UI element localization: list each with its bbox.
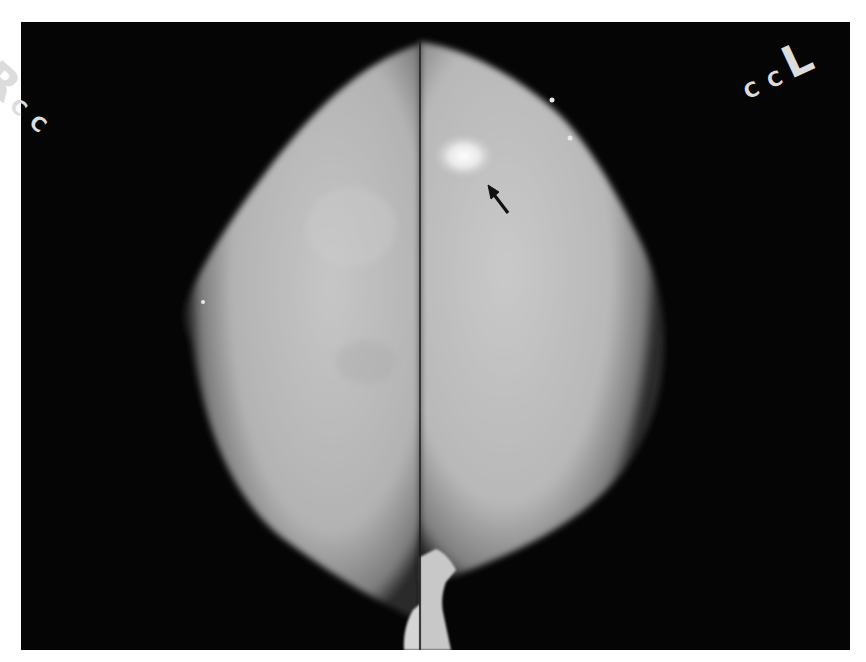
left-breast-tissue <box>420 42 664 582</box>
mammogram-image <box>21 22 850 650</box>
nipple-marker-dot <box>201 300 205 304</box>
compression-paddle-edge <box>420 549 456 650</box>
skin-marker-dot <box>550 98 555 103</box>
skin-marker-dot <box>568 136 573 141</box>
lesion-density <box>434 134 494 178</box>
right-breast-density <box>336 340 396 384</box>
mammogram-film <box>21 22 850 650</box>
right-breast-density <box>306 187 396 267</box>
right-breast-tissue <box>185 44 420 622</box>
